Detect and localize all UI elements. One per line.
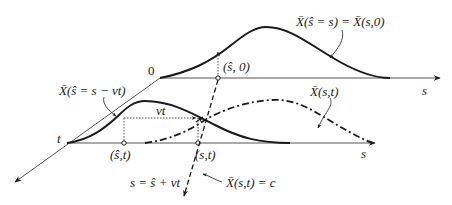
point-bottom-left-label: (ŝ,t): [110, 148, 131, 162]
characteristic-leader: [203, 174, 222, 182]
initial-profile-leader: [330, 30, 343, 58]
shifted-profile-leader: [104, 97, 116, 116]
evolved-profile-curve: [145, 100, 372, 143]
shifted-profile-label: X̄(ŝ = s − vt): [59, 84, 126, 98]
point-top-label: (ŝ, 0): [223, 60, 250, 74]
point-top: [216, 76, 220, 80]
evolved-profile-label: X̄(s,t): [310, 85, 339, 99]
t-axis-label: t: [57, 132, 61, 146]
initial-profile-label: X̄(ŝ = s) = X̄(s,0): [296, 15, 385, 29]
s-axis-top-label: s: [422, 84, 427, 98]
point-bottom-left: [122, 141, 126, 145]
characteristic-equation-label: s = ŝ + vt: [130, 176, 180, 190]
point-bottom-right-label: (s,t): [195, 148, 216, 162]
evolved-profile-leader: [318, 98, 331, 128]
shift-label: vt: [156, 104, 165, 118]
characteristic-constant-label: X̄(s,t) = c: [226, 176, 276, 190]
initial-profile-curve: [160, 27, 390, 78]
diagram-canvas: 0 t s s (ŝ, 0) (ŝ,t) (s,t) vt X̄(ŝ = s) …: [0, 0, 452, 205]
shifted-profile-curve: [67, 101, 290, 143]
origin-label: 0: [148, 64, 155, 78]
s-axis-bottom-label: s: [361, 147, 366, 161]
